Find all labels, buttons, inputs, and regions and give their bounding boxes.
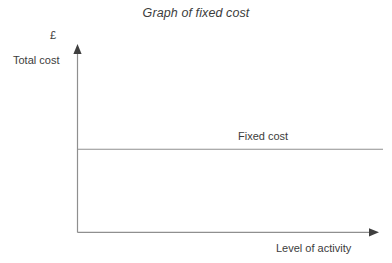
x-axis-arrowhead-icon — [369, 228, 379, 236]
plot-area — [0, 0, 392, 263]
fixed-cost-chart: Graph of fixed cost £ Total cost Fixed c… — [0, 0, 392, 263]
y-axis-arrowhead-icon — [73, 44, 81, 54]
